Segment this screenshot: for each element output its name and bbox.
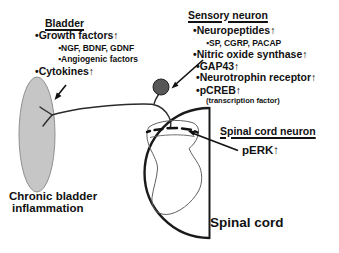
bladder-spinal-diagram: Bladder •Growth factors↑ ▪NGF, BDNF, GDN… — [0, 0, 339, 253]
sensory-item-sp-cgrp-pacap: ▪SP, CGRP, PACAP — [206, 39, 281, 48]
sensory-item-nitric-oxide-synthase: •Nitric oxide synthase↑ — [193, 49, 308, 60]
spinal-neuron-item-perk: pERK↑ — [242, 144, 279, 156]
caption-spinal-cord: Spinal cord — [210, 216, 284, 230]
bladder-panel-title: Bladder — [45, 18, 84, 29]
soma-stalk — [154, 95, 159, 105]
caption-chronic-bladder-line2: inflammation — [12, 202, 84, 214]
sensory-note-transcription-factor: (transcription factor) — [206, 97, 280, 105]
bladder-item-cytokines: •Cytokines↑ — [35, 66, 94, 77]
bladder-item-growth-factors: •Growth factors↑ — [35, 30, 119, 41]
bladder-item-angiogenic-factors: ▪Angiogenic factors — [58, 55, 138, 64]
sensory-item-gap43: •GAP43↑ — [196, 61, 239, 72]
bladder-shape — [19, 77, 55, 192]
sensory-panel-title: Sensory neuron — [188, 10, 268, 21]
sensory-neuron-soma — [153, 79, 169, 95]
bladder-item-ngf-bdnf-gdnf: ▪NGF, BDNF, GDNF — [58, 44, 134, 53]
sensory-item-neurotrophin-receptor: •Neurotrophin receptor↑ — [196, 72, 316, 83]
sensory-item-neuropeptides: •Neuropeptides↑ — [193, 25, 275, 36]
spinal-neuron-panel-title: Spinal cord neuron — [220, 126, 316, 137]
caption-chronic-bladder-line1: Chronic bladder — [9, 190, 97, 202]
arrow-to-bladder — [55, 85, 67, 100]
sensory-item-pcreb: •pCREB↑ — [196, 85, 241, 96]
